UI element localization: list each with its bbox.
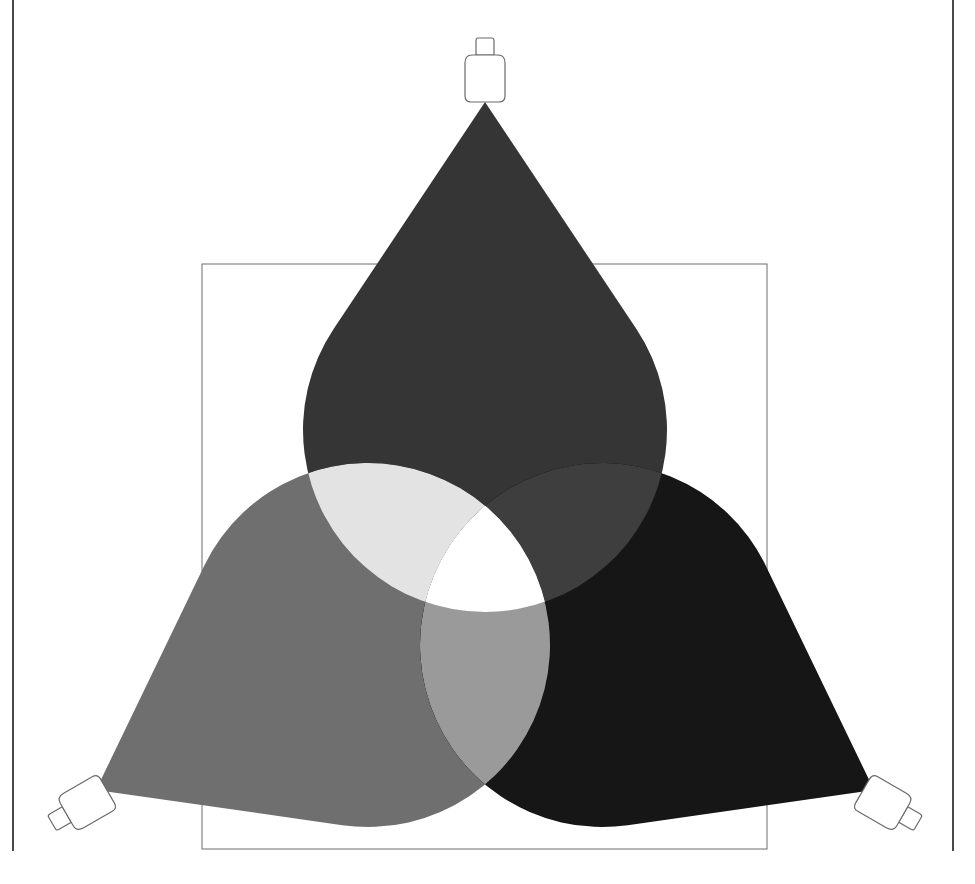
beams-group — [96, 102, 874, 827]
diagram-stage: Three overlapping light beams — [0, 0, 975, 884]
light-beams-diagram — [0, 0, 975, 884]
top-spotlight-icon — [465, 38, 505, 102]
